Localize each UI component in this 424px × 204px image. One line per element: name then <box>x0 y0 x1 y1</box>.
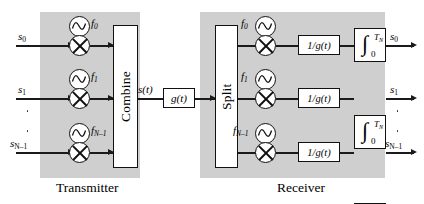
mixer-icon-tx-0 <box>69 35 90 56</box>
rx-output-arrow-1 <box>411 95 417 101</box>
rx-mixer-out-wire-1 <box>276 98 298 100</box>
mixer-icon-rx-0 <box>255 35 276 56</box>
integrator-block-2[interactable]: ∫ TN 0 <box>354 203 386 204</box>
split-block[interactable]: Split <box>215 25 238 168</box>
integral-lower-limit: 0 <box>371 136 376 146</box>
rx-output-label-0: s0 <box>390 31 398 44</box>
oscillator-icon-tx-2 <box>69 123 90 144</box>
block-diagram: s0 f0 s1 f1 sN–1 <box>0 0 424 204</box>
rx-filter-out-wire-1 <box>340 98 354 100</box>
rx-output-wire-1 <box>386 98 414 100</box>
integrator-block-1[interactable]: ∫ TN 0 <box>354 115 386 149</box>
rx-output-wire-2 <box>386 152 414 154</box>
tx-input-wire-2 <box>16 152 73 154</box>
rx-output-arrow-0 <box>411 42 417 48</box>
integrator-block-0[interactable]: ∫ TN 0 <box>354 28 386 62</box>
rx-carrier-label-1: f1 <box>241 71 248 84</box>
tx-input-label-2: sN–1 <box>10 138 27 151</box>
integral-upper-limit: TN <box>374 119 383 130</box>
inverse-filter-block-2[interactable]: 1/g(t) <box>298 142 340 162</box>
vertical-ellipsis-icon-rx-outputs <box>396 110 399 132</box>
oscillator-icon-tx-1 <box>69 69 90 90</box>
tx-carrier-label-2: fN–1 <box>91 125 107 138</box>
rx-output-arrow-2 <box>411 149 417 155</box>
integral-sign: ∫ <box>362 120 368 142</box>
receiver-section-label: Receiver <box>277 180 325 196</box>
oscillator-icon-rx-2 <box>255 123 276 144</box>
tx-carrier-label-0: f0 <box>91 18 98 31</box>
rx-carrier-label-2: fN–1 <box>233 125 249 138</box>
integral-upper-limit: TN <box>374 32 383 43</box>
rx-output-label-2: sN–1 <box>385 138 402 151</box>
rx-mixer-out-wire-0 <box>276 45 298 47</box>
mixer-icon-rx-2 <box>255 142 276 163</box>
rx-carrier-label-0: f0 <box>241 18 248 31</box>
tx-input-label-1: s1 <box>18 84 26 97</box>
tx-input-wire-0 <box>16 45 73 47</box>
tx-input-label-0: s0 <box>18 31 26 44</box>
rx-mixer-out-wire-2 <box>276 152 298 154</box>
signal-label: s(t) <box>138 84 153 95</box>
tx-carrier-label-1: f1 <box>91 71 98 84</box>
combine-block[interactable]: Combine <box>113 25 138 168</box>
oscillator-icon-rx-0 <box>255 16 276 37</box>
rx-filter-out-wire-0 <box>340 45 354 47</box>
oscillator-icon-rx-1 <box>255 69 276 90</box>
rx-filter-out-wire-2 <box>340 152 354 154</box>
oscillator-icon-tx-0 <box>69 16 90 37</box>
mixer-icon-tx-2 <box>69 142 90 163</box>
rx-output-wire-0 <box>386 45 414 47</box>
rx-output-label-1: s1 <box>390 84 398 97</box>
inverse-filter-block-1[interactable]: 1/g(t) <box>298 88 340 108</box>
pulse-shaping-filter-block[interactable]: g(t) <box>163 88 195 108</box>
tx-input-wire-1 <box>16 98 73 100</box>
combined-signal-wire <box>138 98 163 100</box>
vertical-ellipsis-icon-tx-inputs <box>26 110 29 132</box>
mixer-icon-tx-1 <box>69 88 90 109</box>
integral-sign: ∫ <box>362 33 368 55</box>
transmitter-section-label: Transmitter <box>56 180 119 196</box>
mixer-icon-rx-1 <box>255 88 276 109</box>
integral-lower-limit: 0 <box>371 49 376 59</box>
inverse-filter-block-0[interactable]: 1/g(t) <box>298 35 340 55</box>
